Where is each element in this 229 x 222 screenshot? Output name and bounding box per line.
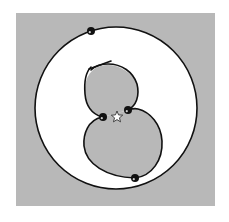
dot-right-inner-highlight (126, 110, 128, 112)
dot-bottom (131, 174, 139, 182)
orbit-diagram (0, 0, 229, 222)
dot-left-inner-highlight (101, 117, 103, 119)
dot-bottom-highlight (133, 178, 135, 180)
dot-top (87, 27, 95, 35)
dot-right-inner (124, 106, 132, 114)
dot-top-highlight (89, 31, 91, 33)
dot-left-inner (99, 113, 107, 121)
